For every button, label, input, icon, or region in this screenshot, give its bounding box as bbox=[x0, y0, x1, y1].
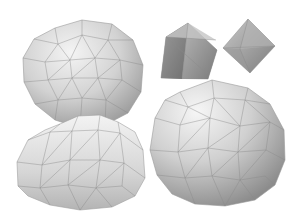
geodesic-dome bbox=[17, 115, 145, 210]
geodesic-sphere-left bbox=[23, 20, 143, 128]
pyramid bbox=[161, 23, 217, 79]
geodesic-sphere-right bbox=[150, 80, 285, 206]
polyhedra-scene bbox=[0, 0, 294, 224]
octahedron bbox=[223, 19, 275, 73]
